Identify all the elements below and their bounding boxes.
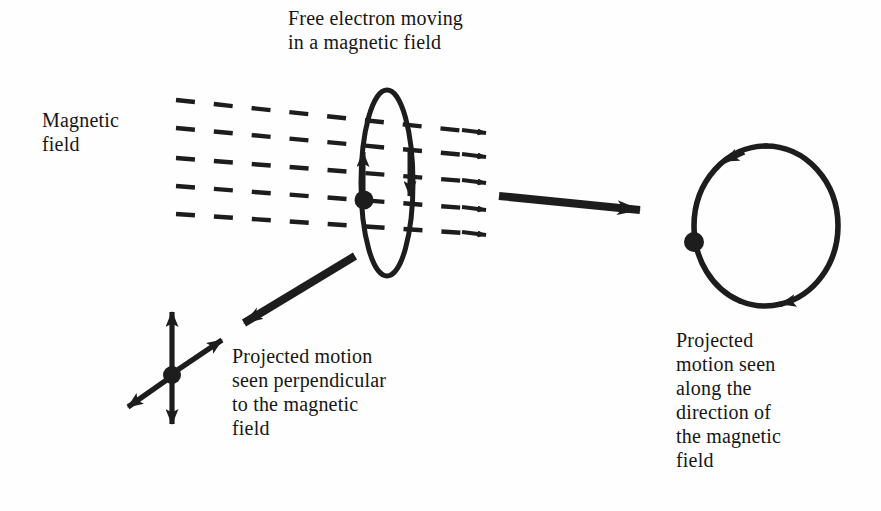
- figure-canvas: Free electron moving in a magnetic field…: [0, 0, 881, 511]
- pointer-to-cross: [244, 256, 355, 323]
- electron-dot-circle: [684, 232, 704, 252]
- electron-dot-ellipse: [355, 191, 374, 210]
- pointer-to-circle: [499, 196, 640, 210]
- projected-orbit-circle: [694, 146, 838, 306]
- field-line-3: [176, 158, 486, 183]
- figure-title: Free electron moving in a magnetic field: [288, 6, 568, 54]
- magnetic-field-lines: [176, 100, 486, 235]
- electron-orbit-ellipse: [361, 90, 413, 276]
- projected-along-label: Projected motion seen along the directio…: [676, 328, 876, 472]
- field-line-4: [176, 186, 486, 210]
- field-line-5: [176, 214, 486, 235]
- projected-perpendicular-label: Projected motion seen perpendicular to t…: [232, 344, 472, 440]
- field-line-2: [176, 128, 486, 157]
- field-line-1: [176, 100, 486, 133]
- magnetic-field-label: Magnetic field: [42, 108, 182, 156]
- electron-dot-cross: [163, 366, 181, 384]
